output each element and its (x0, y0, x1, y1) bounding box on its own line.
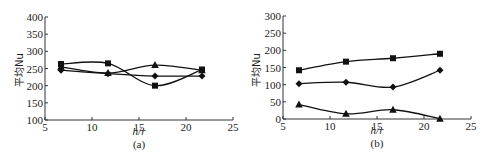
diamond-marker (151, 73, 158, 80)
diamond-marker (198, 73, 205, 80)
chart-b-y-label: 平均Nu (251, 53, 262, 87)
figure: 100150200250300350400 510152025 h/r (a) … (0, 0, 487, 161)
diamond-marker (389, 84, 396, 91)
y-tick-label: 350 (27, 28, 44, 40)
square-marker (296, 67, 302, 73)
x-tick-label: 20 (419, 120, 431, 132)
x-tick-label: 10 (87, 121, 99, 133)
chart-b-series (295, 51, 444, 122)
y-tick-label: 150 (27, 97, 44, 109)
y-tick-label: 300 (27, 45, 44, 57)
y-tick-label: 100 (27, 114, 44, 126)
y-tick-label: 250 (265, 27, 282, 39)
diamond-marker (436, 67, 443, 74)
x-tick-label: 25 (228, 121, 240, 133)
chart-a: 100150200250300350400 510152025 h/r (a) … (14, 11, 239, 151)
y-tick-label: 250 (27, 63, 44, 75)
chart-a-y-label: 平均Nu (14, 53, 25, 87)
diamond-marker (295, 80, 302, 87)
y-tick-label: 200 (27, 80, 44, 92)
triangle-marker (295, 101, 303, 108)
x-tick-label: 5 (42, 121, 48, 133)
y-tick-label: 400 (27, 11, 44, 23)
diamond-marker (342, 79, 349, 86)
x-tick-label: 20 (181, 121, 193, 133)
chart-b: 050100150200250300 510152025 h/r (b) 平均N… (251, 10, 477, 150)
chart-a-caption: (a) (133, 138, 146, 151)
x-tick-label: 25 (466, 120, 478, 132)
x-tick-label: 5 (280, 120, 286, 132)
y-tick-label: 200 (265, 44, 282, 56)
y-tick-label: 100 (265, 79, 282, 91)
square-marker (390, 55, 396, 61)
square-marker (437, 51, 443, 57)
chart-a-series (57, 60, 206, 88)
y-tick-label: 150 (265, 62, 282, 74)
y-tick-label: 50 (270, 96, 282, 108)
series-line-square (299, 54, 440, 70)
series-line-triangle (299, 105, 440, 119)
y-tick-label: 300 (265, 10, 282, 22)
square-marker (105, 60, 111, 66)
square-marker (343, 59, 349, 65)
chart-b-caption: (b) (371, 137, 384, 150)
square-marker (152, 83, 158, 89)
x-tick-label: 10 (325, 120, 337, 132)
chart-a-x-label: h/r (133, 125, 147, 137)
series-line-diamond (61, 70, 202, 76)
series-line-square (61, 62, 202, 86)
series-line-diamond (299, 70, 440, 87)
chart-b-x-label: h/r (371, 124, 385, 136)
